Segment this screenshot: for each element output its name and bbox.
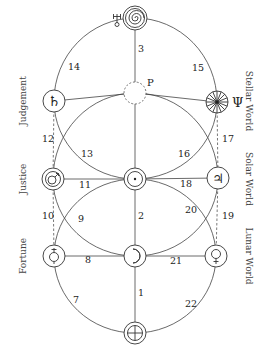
path-number-19: 19 — [222, 210, 234, 221]
path-number-2: 2 — [138, 210, 144, 221]
saturn-node-icon: ♄ — [43, 90, 65, 112]
path-number-3: 3 — [138, 43, 144, 54]
label-fortune: Fortune — [18, 238, 28, 274]
pluto-node-icon — [124, 82, 146, 104]
path-number-9: 9 — [78, 213, 84, 224]
path-number-20: 20 — [185, 204, 197, 215]
path-number-1: 1 — [138, 287, 144, 298]
path-number-21: 21 — [170, 255, 182, 266]
label-justice: Justice — [18, 164, 28, 196]
path-15-arc — [135, 18, 217, 102]
label-lunar-world: Lunar World — [244, 227, 254, 284]
sun-circle-upper-left — [53, 93, 135, 179]
saturn-pluto-line — [54, 93, 135, 101]
path-number-22: 22 — [185, 298, 197, 309]
pluto-symbol: P — [147, 77, 154, 88]
pluto-neptune-line — [135, 93, 217, 102]
path-number-17: 17 — [222, 133, 234, 144]
neptune-symbol: Ψ — [232, 95, 243, 110]
earth-node-icon — [124, 322, 146, 344]
spiral-node-icon — [123, 6, 147, 30]
label-solar-world: Solar World — [244, 152, 254, 206]
mars-node-icon — [42, 168, 64, 190]
label-stellar-world: Stellar World — [244, 71, 254, 132]
path-13-arc — [54, 101, 135, 179]
path-number-10: 10 — [42, 210, 54, 221]
svg-text:♃: ♃ — [212, 171, 224, 186]
path-14-arc — [54, 18, 135, 101]
path-number-16: 16 — [178, 148, 190, 159]
venus-left-node-icon — [43, 245, 65, 267]
svg-text:♄: ♄ — [48, 93, 61, 109]
path-number-14: 14 — [68, 61, 80, 72]
path-number-11: 11 — [79, 179, 91, 190]
path-20-arc — [135, 179, 216, 256]
path-number-12: 12 — [42, 133, 54, 144]
sun-node-icon — [124, 168, 146, 190]
path-number-13: 13 — [81, 148, 93, 159]
path-7-arc — [54, 256, 135, 333]
tree-of-life-diagram: P ♄ Ψ ♃ — [0, 0, 270, 355]
path-number-7: 7 — [73, 294, 79, 305]
path-number-15: 15 — [192, 62, 204, 73]
path-number-18: 18 — [180, 178, 192, 189]
path-number-8: 8 — [85, 254, 91, 265]
moon-node-icon — [124, 245, 146, 267]
sun-circle-upper-right — [135, 93, 218, 178]
uranus-symbol-icon — [114, 14, 121, 27]
neptune-wheel-node-icon — [206, 91, 228, 113]
venus-right-node-icon — [205, 245, 227, 267]
jupiter-node-icon: ♃ — [207, 167, 229, 189]
label-judgement: Judgement — [18, 76, 28, 127]
path-22-arc — [135, 256, 216, 333]
path-9-arc — [54, 179, 135, 256]
path-16-arc — [135, 102, 217, 179]
